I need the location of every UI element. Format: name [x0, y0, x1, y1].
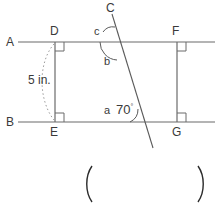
angle-value-number: 70: [116, 102, 130, 117]
right-angle-mark-f: [177, 42, 186, 51]
answer-open-paren-glyph: [87, 166, 92, 202]
label-angle-b: b: [104, 56, 110, 67]
label-angle-c: c: [94, 26, 100, 37]
label-point-d: D: [50, 25, 59, 37]
label-point-f: F: [172, 25, 179, 37]
label-point-c: C: [106, 2, 115, 14]
label-point-e: E: [50, 126, 58, 138]
geometry-canvas: [0, 0, 221, 217]
degree-symbol: °: [130, 103, 133, 110]
right-angle-mark-d: [55, 42, 64, 51]
label-line-a: A: [6, 36, 14, 48]
right-angle-mark-e: [55, 113, 64, 122]
answer-close-paren-glyph: [198, 166, 203, 202]
angle-c-arc: [103, 27, 115, 32]
right-angle-mark-g: [177, 113, 186, 122]
label-line-b: B: [6, 116, 14, 128]
label-angle-value-70: 70°: [116, 103, 133, 116]
label-measure-5in: 5 in.: [28, 74, 51, 86]
transversal-path: [112, 14, 153, 148]
label-angle-a: a: [104, 105, 110, 116]
geometry-figure: A D C F B E G c b a 70° 5 in.: [0, 0, 221, 217]
label-point-g: G: [172, 126, 181, 138]
